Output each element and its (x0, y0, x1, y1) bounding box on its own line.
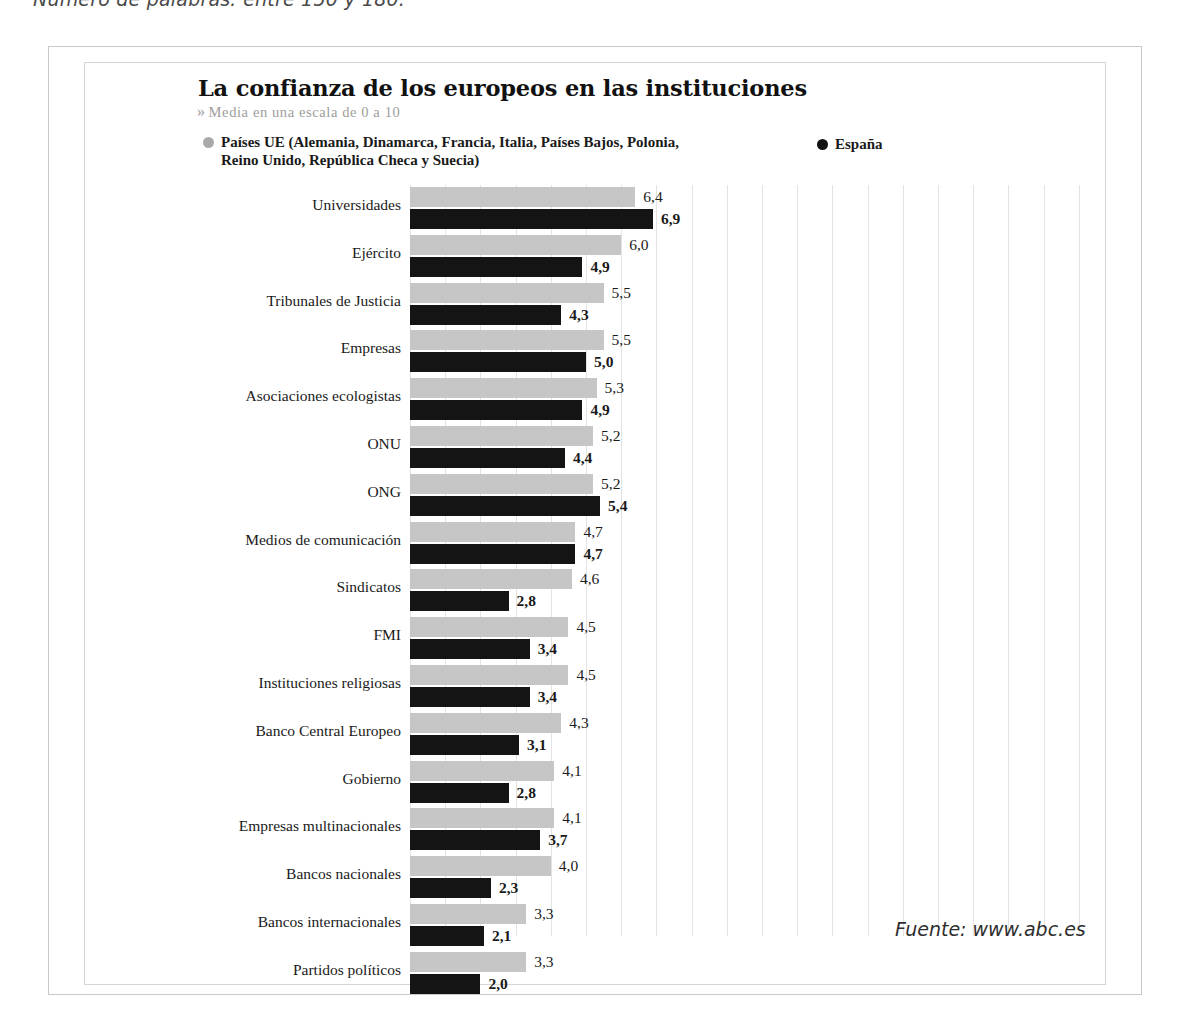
bar-rect-es (410, 878, 491, 898)
bar-value-eu: 3,3 (534, 953, 553, 971)
bar-value-es: 3,7 (548, 831, 567, 849)
bar-rect-es (410, 305, 561, 325)
bar-rect-eu (410, 569, 572, 589)
chart-row: Asociaciones ecologistas5,34,9 (85, 376, 1107, 424)
chart-rows: Universidades6,46,9Ejército6,04,9Tribuna… (85, 185, 1107, 998)
bar-rect-es (410, 400, 582, 420)
chart-row: Sindicatos4,62,8 (85, 567, 1107, 615)
bar-value-es: 4,7 (583, 545, 602, 563)
legend-item-espana: España (817, 135, 883, 153)
bar-rect-eu (410, 378, 597, 398)
category-label: Sindicatos (111, 578, 401, 596)
bar-rect-eu (410, 665, 568, 685)
bar-value-es: 2,3 (499, 879, 518, 897)
chart-subtitle: »Media en una escala de 0 a 10 (197, 103, 400, 121)
bar-rect-eu (410, 474, 593, 494)
plot-area: Universidades6,46,9Ejército6,04,9Tribuna… (85, 185, 1107, 985)
bar-value-es: 3,4 (538, 688, 557, 706)
chart-row: Instituciones religiosas4,53,4 (85, 663, 1107, 711)
bar-value-eu: 5,2 (601, 427, 620, 445)
figure-frame: La confianza de los europeos en las inst… (84, 62, 1106, 985)
category-label: Gobierno (111, 770, 401, 788)
bar-rect-eu (410, 713, 561, 733)
bar-value-es: 4,9 (590, 401, 609, 419)
bar-value-es: 3,1 (527, 736, 546, 754)
chart-row: Empresas5,55,0 (85, 328, 1107, 376)
bar-rect-es (410, 591, 509, 611)
bar-value-eu: 4,1 (562, 762, 581, 780)
bar-value-eu: 6,4 (643, 188, 662, 206)
bar-rect-es (410, 448, 565, 468)
chart-legend: Países UE (Alemania, Dinamarca, Francia,… (203, 133, 963, 175)
bar-rect-eu (410, 761, 554, 781)
category-label: Empresas (111, 339, 401, 357)
bar-rect-eu (410, 283, 604, 303)
legend-label-paises-ue: Países UE (Alemania, Dinamarca, Francia,… (221, 133, 691, 169)
bar-value-eu: 5,2 (601, 475, 620, 493)
bar-rect-eu (410, 904, 526, 924)
category-label: Bancos internacionales (111, 913, 401, 931)
chart-row: FMI4,53,4 (85, 615, 1107, 663)
page-note: Número de palabras: entre 150 y 180. (33, 0, 405, 10)
chart-row: Gobierno4,12,8 (85, 759, 1107, 807)
category-label: Partidos políticos (111, 961, 401, 979)
category-label: Empresas multinacionales (111, 817, 401, 835)
category-label: Banco Central Europeo (111, 722, 401, 740)
category-label: Bancos nacionales (111, 865, 401, 883)
chart-title: La confianza de los europeos en las inst… (198, 75, 807, 101)
bar-value-eu: 4,5 (576, 618, 595, 636)
bar-rect-es (410, 257, 582, 277)
bar-value-es: 3,4 (538, 640, 557, 658)
bar-rect-es (410, 783, 509, 803)
bar-rect-es (410, 735, 519, 755)
bar-value-es: 2,1 (492, 927, 511, 945)
bar-value-es: 4,9 (590, 258, 609, 276)
category-label: Asociaciones ecologistas (111, 387, 401, 405)
legend-dot-icon-espana (817, 139, 828, 150)
chart-row: Banco Central Europeo4,33,1 (85, 711, 1107, 759)
bar-rect-eu (410, 617, 568, 637)
bar-value-eu: 5,5 (612, 284, 631, 302)
bar-rect-es (410, 639, 530, 659)
bar-value-es: 4,4 (573, 449, 592, 467)
category-label: Ejército (111, 244, 401, 262)
category-label: Tribunales de Justicia (111, 292, 401, 310)
legend-item-paises-ue: Países UE (Alemania, Dinamarca, Francia,… (203, 133, 691, 169)
bar-value-eu: 4,7 (583, 523, 602, 541)
category-label: Universidades (111, 196, 401, 214)
bar-value-eu: 4,3 (569, 714, 588, 732)
bar-value-eu: 4,1 (562, 809, 581, 827)
bar-value-es: 2,0 (488, 975, 507, 993)
bar-value-es: 4,3 (569, 306, 588, 324)
bar-value-eu: 6,0 (629, 236, 648, 254)
chevron-double-right-icon: » (197, 103, 206, 120)
bar-rect-es (410, 687, 530, 707)
bar-value-es: 6,9 (661, 210, 680, 228)
source-attribution: Fuente: www.abc.es (895, 918, 1086, 940)
category-label: Medios de comunicación (111, 531, 401, 549)
bar-value-eu: 4,0 (559, 857, 578, 875)
category-label: ONG (111, 483, 401, 501)
bar-rect-eu (410, 522, 575, 542)
bar-value-es: 2,8 (517, 784, 536, 802)
bar-rect-eu (410, 952, 526, 972)
legend-label-espana: España (835, 135, 883, 153)
bar-rect-eu (410, 808, 554, 828)
bar-rect-es (410, 830, 540, 850)
chart-row: Tribunales de Justicia5,54,3 (85, 281, 1107, 329)
category-label: Instituciones religiosas (111, 674, 401, 692)
chart-row: Medios de comunicación4,74,7 (85, 520, 1107, 568)
chart-row: ONG5,25,4 (85, 472, 1107, 520)
bar-value-eu: 5,3 (605, 379, 624, 397)
chart-row: Bancos nacionales4,02,3 (85, 854, 1107, 902)
chart-row: Universidades6,46,9 (85, 185, 1107, 233)
bar-rect-eu (410, 426, 593, 446)
bar-rect-es (410, 974, 480, 994)
legend-dot-icon-paises-ue (203, 137, 214, 148)
chart-row: Empresas multinacionales4,13,7 (85, 806, 1107, 854)
bar-value-eu: 4,6 (580, 570, 599, 588)
bar-rect-es (410, 496, 600, 516)
bar-value-eu: 5,5 (612, 331, 631, 349)
bar-value-eu: 3,3 (534, 905, 553, 923)
bar-rect-es (410, 209, 653, 229)
